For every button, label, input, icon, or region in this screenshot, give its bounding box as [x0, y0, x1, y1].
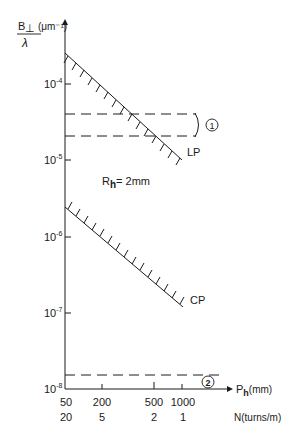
x-tick-labels-primary: 50 200 500 1000 [60, 396, 195, 408]
svg-text:10-4: 10-4 [44, 77, 63, 90]
x-tick-labels-secondary: 20 5 2 1 [60, 411, 186, 423]
marker-2: 2 [202, 376, 214, 388]
x-ticks [102, 382, 182, 389]
y-tick-labels: 10-4 10-5 10-6 10-7 10-8 [44, 77, 63, 395]
bracket-1 [195, 113, 199, 137]
annotation-rh: Rh= 2mm [102, 175, 150, 190]
svg-text:200: 200 [93, 396, 111, 408]
svg-text:2: 2 [151, 411, 157, 423]
y-axis-label: B⊥ λ (μm⁻¹) [17, 20, 67, 50]
svg-text:5: 5 [99, 411, 105, 423]
svg-text:1000: 1000 [171, 396, 195, 408]
svg-text:(μm⁻¹): (μm⁻¹) [38, 21, 67, 32]
svg-text:20: 20 [60, 411, 72, 423]
svg-text:λ: λ [21, 36, 28, 50]
series-cp [65, 202, 184, 307]
svg-text:10-8: 10-8 [44, 382, 63, 395]
svg-text:10-7: 10-7 [44, 306, 63, 319]
svg-text:10-5: 10-5 [44, 153, 63, 166]
x-axis-label-secondary: N(turns/m) [234, 412, 281, 423]
svg-text:B⊥: B⊥ [18, 20, 35, 34]
svg-text:1: 1 [180, 411, 186, 423]
svg-text:2: 2 [205, 378, 210, 388]
svg-text:50: 50 [60, 396, 72, 408]
svg-text:500: 500 [145, 396, 163, 408]
series-cp-label: CP [190, 294, 205, 306]
svg-text:1: 1 [209, 121, 214, 131]
chart-canvas: 10-4 10-5 10-6 10-7 10-8 B⊥ λ (μm⁻¹) 50 … [0, 0, 295, 438]
x-axis-label-primary: Ph(mm) [236, 383, 272, 398]
series-lp [64, 53, 182, 165]
y-ticks [65, 84, 71, 313]
series-lp-label: LP [187, 146, 200, 158]
marker-1: 1 [206, 119, 218, 131]
svg-text:10-6: 10-6 [44, 230, 63, 243]
